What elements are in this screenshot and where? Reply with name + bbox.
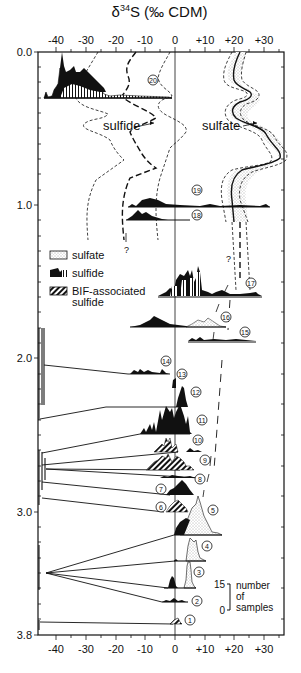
age-range-bars	[39, 328, 45, 630]
top-tick-pos20: +20	[225, 34, 244, 46]
histogram-1: 1	[170, 615, 195, 625]
histogram-3: 3	[164, 562, 204, 588]
bottom-tick-pos10: +10	[196, 643, 215, 655]
label-5: 5	[211, 507, 215, 514]
legend: sulfate sulfide BIF-associated sulfide	[50, 249, 145, 308]
label-6: 6	[159, 504, 163, 511]
legend-bif-label-2: sulfide	[72, 296, 104, 308]
top-tick-neg30: -30	[78, 34, 94, 46]
label-12: 12	[192, 389, 200, 396]
label-7: 7	[159, 486, 163, 493]
label-10: 10	[194, 437, 202, 444]
legend-sulfate: sulfate	[50, 249, 104, 261]
histogram-15: 15	[188, 327, 256, 342]
bottom-tick-neg40: -40	[48, 643, 64, 655]
histogram-6: 6	[156, 500, 188, 512]
question-mark-1: ?	[124, 245, 129, 255]
bottom-tick-neg30: -30	[78, 643, 94, 655]
label-16: 16	[222, 314, 230, 321]
scale-min: 0	[219, 605, 225, 616]
histogram-14: 14	[130, 356, 171, 374]
y-axis	[34, 52, 284, 635]
histogram-20: 20	[44, 52, 172, 98]
top-tick-neg40: -40	[48, 34, 64, 46]
scale-max: 15	[214, 579, 226, 590]
sample-scale-bar: 15 0 number of samples	[214, 579, 273, 616]
legend-sulfide: sulfide	[50, 267, 104, 279]
label-13: 13	[178, 371, 186, 378]
scale-text-1: number	[236, 580, 271, 591]
label-14: 14	[162, 358, 170, 365]
plot-frame	[38, 52, 284, 635]
bottom-tick-neg20: -20	[108, 643, 124, 655]
histogram-10: 10	[154, 435, 203, 452]
bottom-tick-pos30: +30	[255, 643, 274, 655]
histogram-2: 2	[162, 596, 202, 606]
label-20: 20	[149, 77, 157, 84]
histogram-9: 9	[146, 454, 211, 470]
y-tick-3: 3.0	[17, 506, 32, 518]
top-x-axis: -40 -30 -20 -10 0 +10 +20 +30	[48, 34, 279, 52]
label-9: 9	[203, 457, 207, 464]
label-11: 11	[198, 417, 205, 424]
sulfate-label: sulfate	[202, 118, 240, 133]
top-tick-neg10: -10	[137, 34, 153, 46]
scale-text-2: of	[236, 591, 245, 602]
bottom-tick-neg10: -10	[137, 643, 153, 655]
legend-sulfate-label: sulfate	[72, 249, 104, 261]
label-18: 18	[193, 212, 201, 219]
isotope-chart: -40 -30 -20 -10 0 +10 +20 +30 -40 -30 -2…	[0, 0, 301, 673]
legend-sulfide-label: sulfide	[72, 267, 104, 279]
label-19: 19	[193, 187, 201, 194]
histogram-5: 5	[174, 496, 222, 535]
question-mark-2: ?	[226, 254, 231, 264]
y-tick-2: 2.0	[17, 352, 32, 364]
bottom-x-axis: -40 -30 -20 -10 0 +10 +20 +30	[48, 635, 279, 655]
label-8: 8	[198, 476, 202, 483]
histogram-19: 19	[128, 185, 270, 207]
legend-bif: BIF-associated sulfide	[50, 285, 145, 308]
top-tick-neg20: -20	[108, 34, 124, 46]
label-3: 3	[197, 569, 201, 576]
scale-text-3: samples	[236, 602, 273, 613]
bottom-tick-pos20: +20	[225, 643, 244, 655]
histogram-4: 4	[174, 538, 212, 561]
top-tick-pos10: +10	[196, 34, 215, 46]
histogram-17: 17	[158, 266, 262, 297]
label-1: 1	[188, 617, 192, 624]
label-17: 17	[247, 280, 255, 287]
y-tick-0: 0.0	[17, 46, 32, 58]
y-tick-1: 1.0	[17, 199, 32, 211]
histogram-18: 18	[126, 210, 202, 220]
y-tick-labels: 0.0 1.0 2.0 3.0 3.8	[17, 46, 32, 641]
histogram-16: 16	[130, 304, 231, 327]
top-tick-pos30: +30	[255, 34, 274, 46]
label-4: 4	[205, 543, 209, 550]
histogram-11: 11	[140, 404, 207, 434]
histogram-13: 13	[172, 369, 187, 388]
top-tick-0: 0	[172, 34, 178, 46]
y-tick-3-8: 3.8	[17, 629, 32, 641]
bottom-tick-0: 0	[172, 643, 178, 655]
sulfate-envelope	[214, 52, 287, 470]
sulfide-label: sulfide	[103, 118, 141, 133]
label-15: 15	[241, 329, 249, 336]
label-2: 2	[195, 598, 199, 605]
histogram-12: 12	[176, 386, 201, 407]
